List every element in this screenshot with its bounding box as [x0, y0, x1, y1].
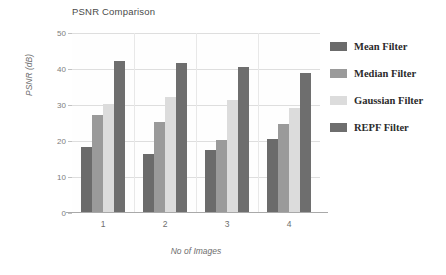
bar — [289, 108, 300, 213]
legend-swatch-icon — [330, 42, 347, 51]
bar — [103, 104, 114, 213]
y-tick-label: 0 — [62, 209, 66, 218]
chart-legend: Mean FilterMedian FilterGaussian FilterR… — [330, 33, 442, 141]
x-axis-title: No of Images — [72, 246, 320, 256]
legend-item[interactable]: Gaussian Filter — [330, 87, 442, 114]
y-tick-mark — [68, 105, 72, 106]
y-tick-mark — [68, 177, 72, 178]
bar — [176, 63, 187, 213]
legend-swatch-icon — [330, 96, 347, 105]
y-axis-title: PSNR (dB) — [24, 54, 34, 96]
x-tick-label: 3 — [225, 219, 230, 229]
legend-label: Median Filter — [354, 68, 416, 79]
chart-figure: PSNR Comparison PSNR (dB) 01020304050 12… — [0, 0, 446, 275]
bar — [267, 139, 278, 213]
x-tick-label: 2 — [163, 219, 168, 229]
plot-area: 01020304050 1234 — [72, 33, 320, 213]
y-tick-mark — [68, 141, 72, 142]
y-tick-label: 40 — [57, 65, 66, 74]
bar — [216, 140, 227, 213]
bar — [165, 97, 176, 213]
bar — [227, 100, 238, 213]
legend-item[interactable]: Mean Filter — [330, 33, 442, 60]
bar — [81, 147, 92, 213]
category-separator — [258, 33, 259, 213]
bar — [143, 154, 154, 213]
bar — [278, 124, 289, 213]
x-tick-label: 1 — [101, 219, 106, 229]
bar — [92, 115, 103, 213]
legend-label: Mean Filter — [354, 41, 407, 52]
legend-label: Gaussian Filter — [354, 95, 423, 106]
category-separator — [134, 33, 135, 213]
bar — [238, 67, 249, 213]
y-tick-mark — [68, 69, 72, 70]
legend-swatch-icon — [330, 123, 347, 132]
bar — [205, 150, 216, 213]
legend-swatch-icon — [330, 69, 347, 78]
x-axis-line — [66, 212, 328, 213]
y-tick-mark — [68, 213, 72, 214]
bar — [154, 122, 165, 213]
legend-item[interactable]: REPF Filter — [330, 114, 442, 141]
legend-label: REPF Filter — [354, 122, 409, 133]
y-tick-label: 50 — [57, 29, 66, 38]
bar — [114, 61, 125, 213]
category-separator — [196, 33, 197, 213]
chart-title: PSNR Comparison — [72, 6, 155, 17]
y-tick-label: 30 — [57, 101, 66, 110]
y-tick-label: 10 — [57, 173, 66, 182]
y-tick-mark — [68, 33, 72, 34]
legend-item[interactable]: Median Filter — [330, 60, 442, 87]
bar — [300, 73, 311, 213]
y-tick-label: 20 — [57, 137, 66, 146]
x-tick-label: 4 — [287, 219, 292, 229]
